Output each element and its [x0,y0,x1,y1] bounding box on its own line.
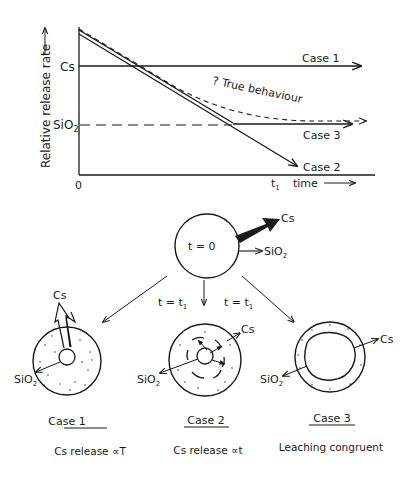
case3-cs-label: Cs [380,333,394,346]
case2-internal-arrow-c-icon [212,360,225,364]
case1-label: Case 1 [302,52,339,65]
case3-cs-arrow-icon [354,339,378,348]
branch-label-right: t = t1 [224,296,253,311]
case2-title: Case 2 [187,414,224,427]
release-rate-chart: Relative release rate Cs SiO2 0 t1 time … [39,27,375,192]
case2-label: Case 2 [303,161,340,174]
case2-internal-arrow-b-icon [210,346,222,353]
case2-sio2-arrow-icon [160,359,198,373]
initial-sio2-label: SiO2 [264,245,287,260]
case2-particle: Cs SiO2 [137,323,255,396]
case1-sio2-arrow-icon [36,362,60,372]
case2-line [79,34,297,166]
x-axis-label: time [293,177,318,190]
case3-title: Case 3 [313,412,350,425]
y-tick-sio2: SiO2 [53,118,79,134]
case1-cs-label: Cs [53,289,67,302]
origin-label: 0 [75,179,82,192]
case1-cs-release-arrow-icon [55,303,75,348]
case1-particle: Cs SiO2 [14,289,101,395]
case2-caption: Cs release ∝t [173,444,242,456]
y-tick-cs: Cs [60,60,75,74]
case1-caption: Cs release ∝T [54,445,126,457]
case3-decline-line [79,30,233,123]
cs-release-bold-arrow-icon [235,218,280,243]
case1-sio2-label: SiO2 [14,373,37,388]
case2-sio2-label: SiO2 [137,373,160,388]
branch-arrow-case3-icon [242,276,294,322]
y-axis-label: Relative release rate [39,44,53,168]
case3-label: Case 3 [303,129,340,142]
case3-sio2-label: SiO2 [260,373,283,388]
case3-particle: Cs SiO2 [260,322,394,392]
case3-inner-boundary [305,332,355,380]
branch-label-left: t = t1 [158,296,187,311]
particle-schematic: t = 0 Cs SiO2 t = t1 t = t1 Cs [14,212,394,457]
diagram-canvas: Relative release rate Cs SiO2 0 t1 time … [0,0,411,479]
true-behaviour-annotation: ? True behaviour [211,74,304,106]
case3-sio2-arrow-icon [283,366,307,376]
true-behaviour-curve [79,29,366,121]
t1-label: t1 [271,177,280,192]
case2-cs-label: Cs [241,323,255,336]
case1-title: Case 1 [48,415,85,428]
initial-time-label: t = 0 [188,240,216,253]
case2-cs-arrow-icon [227,333,240,341]
case3-caption: Leaching congruent [279,441,383,453]
initial-cs-label: Cs [281,212,295,225]
